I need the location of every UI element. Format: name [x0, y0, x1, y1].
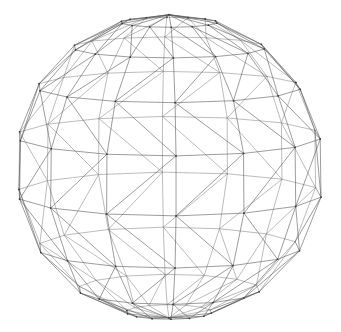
mesh-vertex [175, 155, 177, 157]
mesh-vertex [74, 44, 76, 46]
mesh-vertex [173, 57, 175, 59]
mesh-vertex [243, 297, 245, 299]
mesh-vertex [19, 198, 21, 200]
mesh-vertex [80, 292, 82, 294]
mesh-vertex [295, 206, 297, 208]
mesh-vertex [204, 18, 206, 20]
mesh-vertex [126, 310, 128, 312]
mesh-vertex [191, 26, 193, 28]
mesh-vertex [299, 250, 301, 252]
geodesic-sphere-wireframe [0, 0, 341, 332]
mesh-vertex [170, 318, 172, 320]
mesh-vertex [175, 215, 177, 217]
mesh-vertex [208, 24, 210, 26]
mesh-vertex [67, 260, 69, 262]
mesh-vertex [263, 48, 265, 50]
mesh-vertex [277, 258, 279, 260]
mesh-vertex [19, 131, 21, 133]
mesh-vertex [20, 140, 22, 142]
mesh-vertex [50, 148, 52, 150]
mesh-vertex [187, 17, 189, 19]
mesh-vertex [261, 44, 263, 46]
mesh-vertex [212, 302, 214, 304]
mesh-vertex [277, 95, 279, 97]
mesh-vertex [168, 317, 170, 319]
mesh-vertex [50, 207, 52, 209]
mesh-vertex [145, 17, 147, 19]
mesh-vertex [132, 302, 134, 304]
mesh-vertex [151, 318, 153, 320]
mesh-vertex [136, 316, 138, 318]
mesh-vertex [39, 90, 41, 92]
mesh-vertex [18, 189, 20, 191]
mesh-vertex [299, 88, 301, 90]
mesh-vertex [233, 100, 235, 102]
mesh-vertex [129, 18, 131, 20]
mesh-vertex [106, 213, 108, 215]
mesh-vertex [127, 313, 129, 315]
mesh-vertex [168, 14, 170, 16]
mesh-vertex [294, 146, 296, 148]
mesh-vertex [94, 53, 96, 55]
mesh-vertex [121, 20, 123, 22]
mesh-vertex [115, 266, 117, 268]
mesh-vertex [114, 101, 116, 103]
mesh-vertex [215, 56, 217, 58]
mesh-vertex [215, 20, 217, 22]
mesh-vertex [170, 26, 172, 28]
mesh-vertex [203, 315, 205, 317]
mesh-vertex [320, 196, 322, 198]
mesh-vertex [149, 26, 151, 28]
mesh-vertex [247, 53, 249, 55]
mesh-vertex [232, 265, 234, 267]
figure-root [0, 0, 341, 332]
mesh-vertex [40, 252, 42, 254]
mesh-vertex [98, 298, 100, 300]
mesh-vertex [66, 96, 68, 98]
mesh-vertex [216, 22, 218, 24]
mesh-vertex [166, 16, 168, 18]
mesh-vertex [174, 267, 176, 269]
mesh-vertex [106, 153, 108, 155]
mesh-vertex [319, 138, 321, 140]
mesh-vertex [131, 25, 133, 27]
mesh-vertex [129, 56, 131, 58]
mesh-vertex [258, 291, 260, 293]
mesh-vertex [121, 23, 123, 25]
mesh-vertex [174, 102, 176, 104]
mesh-vertex [172, 304, 174, 306]
mesh-vertex [295, 82, 297, 84]
mesh-vertex [243, 212, 245, 214]
mesh-vertex [243, 153, 245, 155]
mesh-vertex [38, 83, 40, 85]
mesh-vertex [210, 312, 212, 314]
mesh-vertex [189, 318, 191, 320]
mesh-vertex [75, 49, 77, 51]
